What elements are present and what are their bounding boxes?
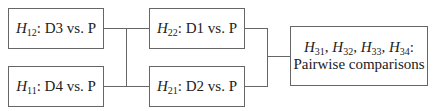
hypothesis-box-h22: H22: D1 vs. P — [149, 8, 245, 49]
connector-level2-vertical — [267, 28, 268, 87]
hypothesis-label: : D1 vs. P — [178, 20, 237, 36]
connector-level1-vertical — [126, 28, 127, 87]
hypothesis-box-h3-pairwise: H31, H32, H33, H34: Pairwise comparisons — [290, 26, 428, 86]
hypothesis-list: H31, H32, H33, H34: — [293, 39, 424, 56]
connector-h12-out — [104, 28, 126, 29]
hypothesis-label: : D2 vs. P — [178, 78, 237, 94]
hypothesis-box-h12: H12: D3 vs. P — [8, 8, 104, 49]
hypothesis-subscript: 11 — [27, 85, 37, 96]
separator: , — [382, 39, 390, 55]
connector-h22-out — [245, 28, 267, 29]
hypothesis-symbol: H — [361, 39, 372, 55]
hypothesis-symbol: H — [157, 78, 168, 94]
hypothesis-symbol: H — [304, 39, 315, 55]
connector-h11-out — [104, 86, 126, 87]
hypothesis-label: : D4 vs. P — [37, 78, 96, 94]
pairwise-label: Pairwise comparisons — [293, 56, 424, 73]
hypothesis-symbol: H — [16, 78, 27, 94]
hypothesis-box-h11: H11: D4 vs. P — [8, 66, 104, 107]
hypothesis-symbol: H — [389, 39, 400, 55]
connector-h21-out — [245, 86, 267, 87]
hypothesis-label: : D3 vs. P — [37, 20, 96, 36]
hypothesis-symbol: H — [332, 39, 343, 55]
connector-h22-in — [126, 28, 149, 29]
hypothesis-subscript: 21 — [168, 85, 178, 96]
separator: : — [410, 39, 414, 55]
hypothesis-symbol: H — [16, 20, 27, 36]
connector-h3-in — [267, 56, 290, 57]
connector-h21-in — [126, 86, 149, 87]
hypothesis-symbol: H — [157, 20, 168, 36]
hypothesis-box-h21: H21: D2 vs. P — [149, 66, 245, 107]
hypothesis-subscript: 22 — [168, 27, 178, 38]
separator: , — [353, 39, 361, 55]
hypothesis-subscript: 12 — [27, 27, 37, 38]
